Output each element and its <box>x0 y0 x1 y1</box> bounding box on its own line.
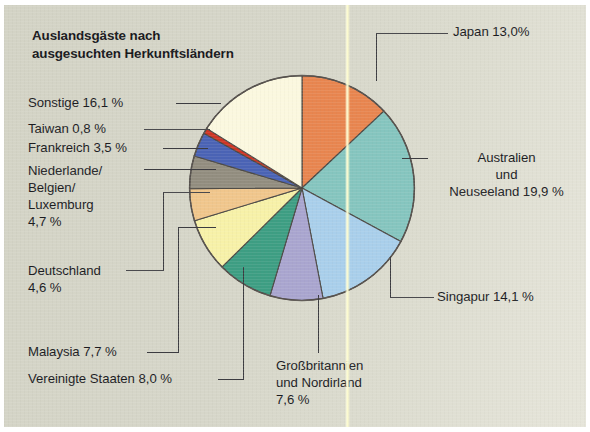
label-australien: Australien und Neuseeland 19,9 % <box>424 150 586 201</box>
leader-vs-h1 <box>218 379 244 380</box>
pie-chart <box>187 73 417 303</box>
label-deutschland: Deutschland 4,6 % <box>28 263 148 297</box>
label-malaysia: Malaysia 7,7 % <box>28 344 117 361</box>
label-grossbritannien: Großbritannien und Nordirland 7,6 % <box>276 358 416 409</box>
leader-malaysia-h1 <box>147 352 179 353</box>
label-sonstige: Sonstige 16,1 % <box>28 95 123 112</box>
page-title: Auslandsgäste nach ausgesuchten Herkunft… <box>32 27 242 64</box>
leader-gb-v <box>318 295 319 353</box>
label-japan: Japan 13,0% <box>453 24 529 41</box>
leader-deutschland-v <box>163 192 164 271</box>
chart-board: Auslandsgäste nach ausgesuchten Herkunft… <box>4 5 586 427</box>
chart-page: { "title": "Auslandsgäste\nnach ausgesuc… <box>0 0 590 432</box>
label-taiwan: Taiwan 0,8 % <box>28 121 106 138</box>
pie-chart-svg <box>187 73 417 303</box>
label-vereinigte-staaten: Vereinigte Staaten 8,0 % <box>28 371 172 388</box>
label-niederlande: Niederlande/ Belgien/ Luxemburg 4,7 % <box>28 163 148 231</box>
label-singapur: Singapur 14,1 % <box>437 289 534 306</box>
leader-japan-h <box>376 33 448 34</box>
leader-malaysia-v <box>178 227 179 353</box>
label-frankreich: Frankreich 3,5 % <box>28 140 127 157</box>
